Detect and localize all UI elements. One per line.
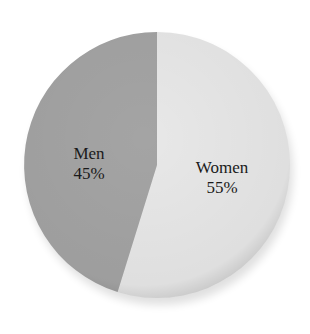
label-women-value: 55% <box>184 178 260 198</box>
label-men: Men 45% <box>64 144 114 184</box>
pie-svg <box>0 0 310 334</box>
label-women-name: Women <box>184 158 260 178</box>
label-women: Women 55% <box>184 158 260 198</box>
pie-chart: Men 45% Women 55% <box>0 0 310 334</box>
label-men-name: Men <box>64 144 114 164</box>
label-men-value: 45% <box>64 164 114 184</box>
